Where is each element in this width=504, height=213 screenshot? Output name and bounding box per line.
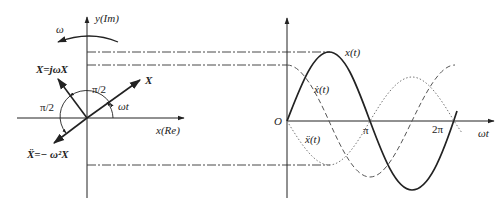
tick-2pi-label: 2π [432, 123, 444, 135]
vector-acceleration [54, 118, 87, 143]
curve-acceleration-label: ẍ(t) [304, 133, 321, 146]
vector-velocity-label: X=jωX [35, 63, 69, 75]
vector-velocity [58, 79, 87, 118]
origin-label: O [274, 115, 282, 127]
vector-x-label: X [144, 74, 153, 86]
curve-displacement-label: x(t) [344, 46, 361, 59]
vector-acceleration-label: Ẍ=− ω²X [26, 148, 69, 160]
angle-upper-label: π/2 [92, 83, 106, 95]
harmonic-motion-diagram: y(Im) x(Re) ω X X=jωX Ẍ=− ω²X π/2 π/2 ωt… [0, 0, 504, 213]
angle-arc-left [60, 96, 70, 133]
phasor-y-label: y(Im) [94, 12, 119, 25]
curve-velocity-label: ẋ(t) [313, 83, 330, 96]
rotation-label: ω [56, 23, 64, 35]
diagram-canvas: y(Im) x(Re) ω X X=jωX Ẍ=− ω²X π/2 π/2 ωt… [0, 0, 504, 213]
phasor-diagram: y(Im) x(Re) ω X X=jωX Ẍ=− ω²X π/2 π/2 ωt [17, 12, 184, 198]
angle-wt-label: ωt [118, 100, 130, 112]
rotation-arrow-icon [58, 36, 118, 42]
phasor-x-label: x(Re) [155, 124, 180, 137]
tick-pi-label: π [363, 124, 369, 136]
waveform-x-label: ωt [478, 127, 490, 139]
waveform-plot: O ωt π 2π x(t) ẋ(t) ẍ(t) [274, 18, 494, 198]
angle-left-label: π/2 [40, 101, 54, 113]
angle-arc-wt [107, 102, 113, 118]
